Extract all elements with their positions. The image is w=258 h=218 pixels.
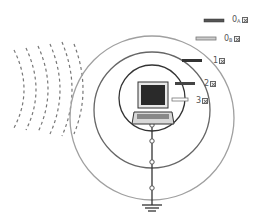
legend-label-1: 1 <box>213 57 225 65</box>
interference-waves <box>14 42 83 136</box>
legend-label-3: 3 <box>196 97 208 105</box>
zone-box-icon <box>219 58 225 64</box>
ground-symbol-icon <box>142 205 162 211</box>
zone-box-icon <box>242 17 248 23</box>
zone-diagram: 0A 0B 1 2 3 <box>0 0 258 218</box>
zone-box-icon <box>202 98 208 104</box>
diagram-graphic <box>0 0 258 218</box>
legend-label-0b: 0B <box>224 35 240 44</box>
zone-box-icon <box>210 81 216 87</box>
zone-box-icon <box>234 36 240 42</box>
legend-label-0a: 0A <box>232 16 248 25</box>
legend-label-2: 2 <box>204 80 216 88</box>
laptop-icon <box>132 82 174 124</box>
